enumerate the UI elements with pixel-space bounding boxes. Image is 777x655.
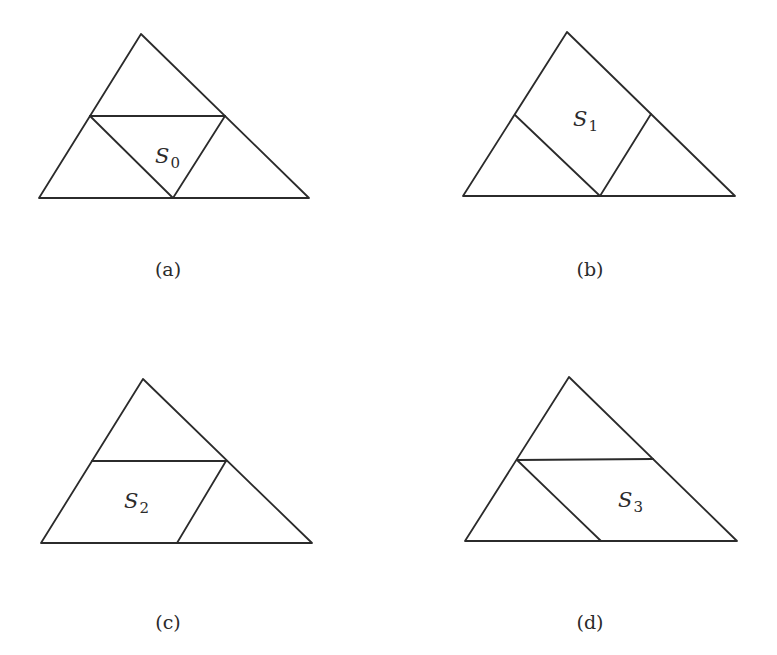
- inner-segment: [517, 460, 601, 541]
- outer-triangle: [463, 32, 735, 196]
- panel-a: S0(a): [39, 34, 309, 280]
- panel-caption: (b): [577, 258, 604, 280]
- triangle-subdivision-figure: S0(a)S1(b)S2(c)S3(d): [0, 0, 777, 655]
- panel-d: S3(d): [465, 377, 737, 633]
- region-label: S0: [155, 144, 180, 172]
- panel-caption: (d): [577, 611, 604, 633]
- panel-b: S1(b): [463, 32, 735, 280]
- region-label: S2: [124, 489, 149, 517]
- inner-segment: [517, 459, 653, 460]
- panel-caption: (c): [155, 611, 180, 633]
- region-label: S1: [573, 107, 598, 135]
- inner-segment: [600, 114, 651, 196]
- panel-c: S2(c): [41, 379, 312, 633]
- region-label: S3: [618, 488, 643, 516]
- panel-caption: (a): [155, 258, 181, 280]
- inner-segment: [177, 461, 226, 543]
- inner-segment: [173, 116, 225, 198]
